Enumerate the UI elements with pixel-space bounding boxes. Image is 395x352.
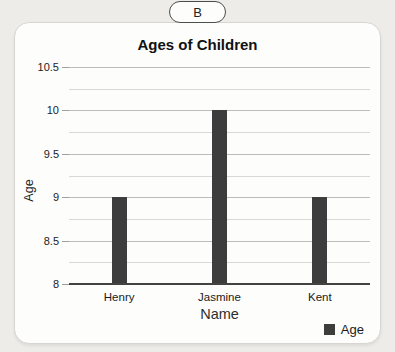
tab-b[interactable]: B xyxy=(169,1,226,23)
y-tick-label: 9.5 xyxy=(21,148,59,160)
x-tick-label-henry: Henry xyxy=(79,291,159,303)
x-axis-title: Name xyxy=(69,306,370,322)
bar-jasmine xyxy=(212,110,227,284)
legend: Age xyxy=(324,322,364,337)
y-tick-mark xyxy=(62,67,69,68)
y-tick-label: 8.5 xyxy=(21,235,59,247)
x-axis-line xyxy=(69,283,370,285)
gridline xyxy=(69,67,370,68)
legend-label: Age xyxy=(341,322,364,337)
y-tick-label: 8 xyxy=(21,278,59,290)
page-background: { "tab": { "label": "B" }, "colors": { "… xyxy=(0,0,395,352)
x-tick-label-kent: Kent xyxy=(280,291,360,303)
legend-swatch xyxy=(324,324,335,335)
y-tick-mark xyxy=(62,197,69,198)
y-axis-title: Age xyxy=(22,175,37,207)
y-tick-mark xyxy=(62,154,69,155)
plot-area: 88.599.51010.5HenryJasmineKent xyxy=(69,67,370,284)
chart-card: Ages of Children 88.599.51010.5HenryJasm… xyxy=(14,22,381,344)
x-tick-label-jasmine: Jasmine xyxy=(180,291,260,303)
y-tick-mark xyxy=(62,241,69,242)
gridline xyxy=(69,89,370,90)
chart-title: Ages of Children xyxy=(15,36,380,53)
y-tick-mark xyxy=(62,110,69,111)
tab-b-label: B xyxy=(193,5,202,20)
y-tick-label: 10.5 xyxy=(21,61,59,73)
y-tick-mark xyxy=(62,284,69,285)
bar-henry xyxy=(112,197,127,284)
y-tick-label: 10 xyxy=(21,104,59,116)
bar-kent xyxy=(312,197,327,284)
